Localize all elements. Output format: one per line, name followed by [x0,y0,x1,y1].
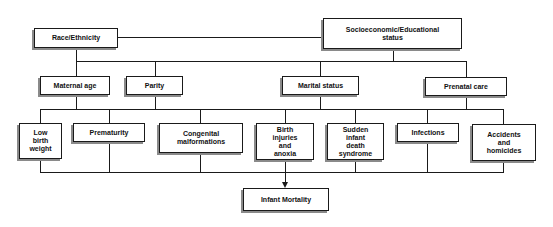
prenatal-down [466,95,467,109]
parity-box: Parity [126,76,183,95]
race-ses-link [117,37,323,38]
to-accidents [503,109,504,124]
bus-to-parity [155,61,156,76]
race-drop [76,47,77,61]
maternal-age-box: Maternal age [40,76,110,95]
arrow-shaft [285,159,286,183]
to-lbw [40,109,41,123]
marital-down [320,94,321,109]
ses-drop [393,48,394,61]
marital-status-box: Marital status [282,76,359,95]
low-birth-weight-box: Low birth weight [19,123,62,159]
to-congenital [200,109,201,123]
accidents-homicides-box: Accidents and homicides [472,124,536,161]
from-accidents [503,160,504,172]
bus-to-prenatal [466,61,467,77]
sids-box: Sudden infant death syndrome [327,123,384,160]
prenatal-care-box: Prenatal care [425,77,507,96]
maternal-down [76,94,77,109]
from-congenital [200,152,201,172]
to-prematurity [109,109,110,123]
from-lbw [40,158,41,172]
birth-injuries-box: Birth injuries and anoxia [256,123,314,160]
parity-down [155,94,156,109]
top-bus [76,61,467,62]
socioeconomic-box: Socioeconomic/Educational status [323,18,462,49]
prematurity-box: Prematurity [73,123,145,142]
bus-to-maternal [76,61,77,76]
from-sids [355,159,356,172]
from-prematurity [109,141,110,172]
bus-to-marital [320,61,321,76]
race-ethnicity-box: Race/Ethnicity [34,28,118,48]
to-infections [427,109,428,123]
from-infections [427,141,428,172]
to-birth-injuries [285,109,286,123]
to-sids [355,109,356,123]
infections-box: Infections [397,123,459,142]
infant-mortality-box: Infant Mortality [243,188,329,211]
bottom-bus [40,172,504,173]
congenital-malformations-box: Congenital malformations [159,123,243,153]
